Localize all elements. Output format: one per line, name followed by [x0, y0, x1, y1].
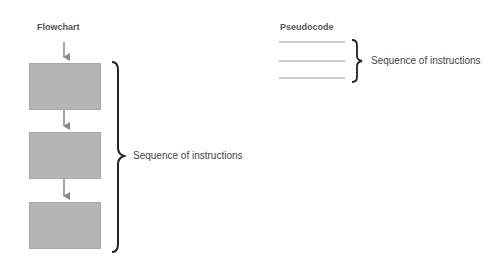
flowchart-step-3 — [29, 202, 101, 249]
flowchart-step-1 — [29, 63, 101, 110]
pseudocode-brace-icon — [352, 40, 362, 82]
flowchart-brace-icon — [112, 62, 124, 252]
pseudocode-brace-label: Sequence of instructions — [371, 55, 481, 66]
flowchart-step-2 — [29, 132, 101, 179]
pseudocode-lines — [279, 42, 345, 78]
pseudocode-title: Pseudocode — [280, 22, 334, 32]
flowchart-brace-label: Sequence of instructions — [133, 150, 243, 161]
